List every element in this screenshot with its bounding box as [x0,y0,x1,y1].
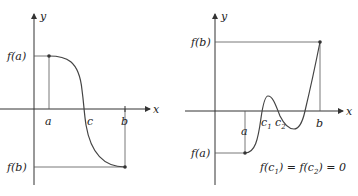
ivt-diagram: y x f(a) f(b) a c b y x f(b) [0,0,358,196]
right-fa-label: f(a) [190,147,210,160]
left-fb-label: f(b) [6,161,27,174]
right-y-axis-label: y [220,10,228,23]
left-b-label: b [121,115,128,128]
left-point-a [47,54,51,58]
right-a-label: a [241,125,248,138]
left-x-axis-label: x [153,103,160,116]
left-figure: y x f(a) f(b) a c b [0,10,160,185]
right-equation: f(c1) = f(c2) = 0 [259,161,346,176]
right-c2-label: c2 [275,116,286,131]
right-figure: y x f(b) f(a) a c1 c2 b f(c1) = f(c2) = … [185,10,353,185]
left-y-axis-label: y [39,10,47,23]
left-a-label: a [45,115,52,128]
right-c1-label: c1 [261,116,272,131]
right-b-label: b [316,117,323,130]
left-fa-label: f(a) [6,50,26,63]
right-fb-label: f(b) [190,36,211,49]
right-point-b [318,40,322,44]
right-point-a [243,151,247,155]
right-curve [245,42,320,153]
right-x-axis-label: x [346,105,353,118]
left-c-label: c [87,115,93,128]
left-point-b [123,165,127,169]
left-curve [49,56,125,167]
